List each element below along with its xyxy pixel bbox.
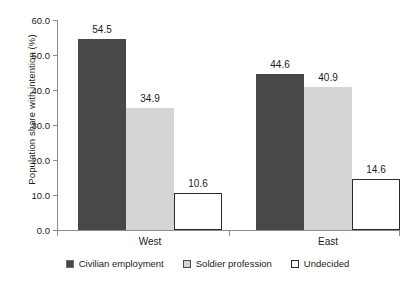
legend-item-civilian-employment[interactable]: Civilian employment	[66, 258, 164, 269]
y-axis-tick	[53, 195, 57, 196]
y-axis-tick	[53, 160, 57, 161]
legend-swatch-icon	[291, 260, 299, 268]
bar-west-series0	[78, 39, 126, 229]
legend-label: Soldier profession	[196, 258, 272, 269]
y-axis-tick-label: 50.0	[32, 49, 51, 60]
y-axis-title: Population share with intention (%)	[26, 5, 37, 215]
legend-item-soldier-profession[interactable]: Soldier profession	[183, 258, 272, 269]
bar-east-series2	[352, 179, 400, 230]
bar-value-label: 14.6	[366, 164, 385, 175]
bar-value-label: 44.6	[270, 59, 289, 70]
bar-west-series1	[126, 108, 174, 230]
bar-west-series2	[174, 193, 222, 230]
y-axis-tick	[53, 20, 57, 21]
y-axis-tick	[53, 55, 57, 56]
bar-value-label: 40.9	[318, 72, 337, 83]
bar-east-series0	[256, 74, 304, 230]
x-axis-category-west: West	[139, 236, 162, 247]
bar-east-series1	[304, 87, 352, 230]
x-axis-tick	[57, 231, 58, 236]
y-axis-tick-label: 20.0	[32, 154, 51, 165]
x-axis-category-east: East	[318, 236, 338, 247]
y-axis-tick-label: 30.0	[32, 119, 51, 130]
y-axis-tick-label: 60.0	[32, 15, 51, 26]
bar-value-label: 34.9	[140, 93, 159, 104]
y-axis-tick	[53, 90, 57, 91]
legend-item-undecided[interactable]: Undecided	[291, 258, 349, 269]
y-axis-tick-label: 40.0	[32, 84, 51, 95]
y-axis-tick	[53, 125, 57, 126]
y-axis-line	[57, 20, 58, 231]
legend-label: Undecided	[304, 258, 349, 269]
bar-value-label: 54.5	[92, 24, 111, 35]
chart-legend: Civilian employmentSoldier professionUnd…	[0, 258, 415, 269]
x-axis-tick	[399, 231, 400, 236]
y-axis-tick-label: 10.0	[32, 189, 51, 200]
chart-container: Population share with intention (%) 0.01…	[0, 0, 415, 286]
legend-label: Civilian employment	[79, 258, 164, 269]
x-axis-tick	[229, 231, 230, 236]
y-axis-tick-label: 0.0	[37, 224, 50, 235]
plot-area: 0.010.020.030.040.050.060.0 54.534.910.6…	[57, 20, 400, 231]
legend-swatch-icon	[183, 260, 191, 268]
bar-value-label: 10.6	[188, 178, 207, 189]
legend-swatch-icon	[66, 260, 74, 268]
